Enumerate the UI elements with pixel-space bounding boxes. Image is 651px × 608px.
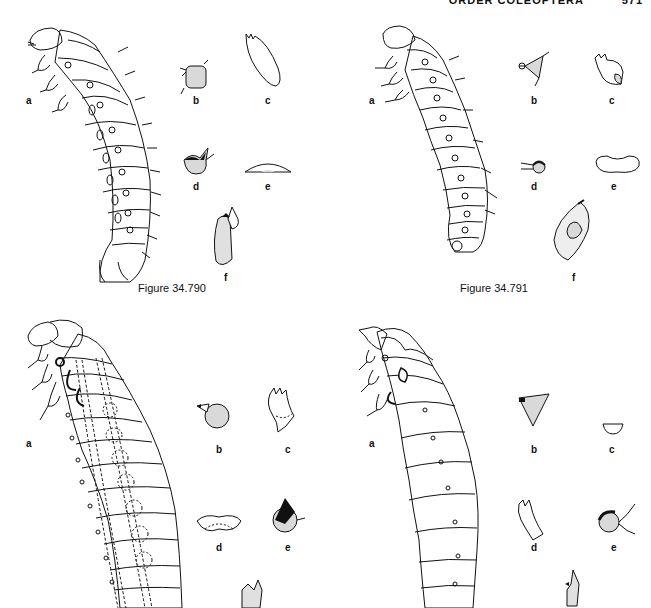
detail-f-illustration-partial	[557, 566, 587, 606]
detail-b-illustration	[178, 60, 218, 100]
figure-caption: Figure 34.791	[460, 282, 528, 294]
panel-label-e: e	[611, 542, 617, 553]
panel-label-b: b	[531, 444, 537, 455]
detail-e-illustration	[265, 492, 305, 536]
panel-label-f: f	[572, 272, 575, 283]
panel-label-b: b	[193, 95, 199, 106]
panel-label-c: c	[265, 95, 271, 106]
figure-34-793: a b c d e	[325, 310, 651, 608]
panel-label-c: c	[609, 444, 615, 455]
panel-label-b: b	[216, 444, 222, 455]
detail-b-illustration	[515, 52, 555, 92]
panel-label-d: d	[531, 542, 537, 553]
panel-label-a: a	[369, 95, 375, 106]
larva-lateral-illustration	[0, 310, 325, 608]
detail-c-illustration	[238, 28, 288, 88]
figure-34-790: a b c d e f Figure 34.790	[0, 0, 325, 310]
panel-label-e: e	[611, 181, 617, 192]
detail-c-illustration	[601, 422, 625, 436]
panel-label-c: c	[609, 95, 615, 106]
detail-e-illustration	[593, 502, 637, 538]
panel-label-d: d	[216, 542, 222, 553]
panel-label-c: c	[285, 444, 291, 455]
detail-d-illustration	[521, 157, 551, 177]
detail-c-illustration	[591, 50, 631, 90]
detail-b-illustration	[515, 392, 555, 432]
panel-label-a: a	[26, 95, 32, 106]
panel-label-a: a	[369, 438, 375, 449]
figure-34-792: a b c d e	[0, 310, 325, 608]
panel-label-e: e	[265, 181, 271, 192]
panel-label-f: f	[224, 272, 227, 283]
detail-f-illustration-partial	[236, 578, 266, 608]
panel-label-b: b	[531, 95, 537, 106]
detail-c-illustration	[264, 386, 304, 436]
larva-lateral-illustration	[325, 310, 651, 608]
detail-d-illustration	[195, 513, 245, 537]
figure-caption: Figure 34.790	[138, 282, 206, 294]
detail-e-illustration	[243, 160, 293, 180]
detail-f-illustration	[550, 200, 594, 264]
figure-34-791: a b c d e f Figure 34.791	[325, 0, 651, 310]
panel-label-d: d	[531, 181, 537, 192]
panel-label-e: e	[285, 542, 291, 553]
detail-d-illustration	[515, 498, 551, 542]
detail-d-illustration	[178, 148, 218, 178]
detail-b-illustration	[195, 394, 235, 434]
panel-label-d: d	[193, 181, 199, 192]
panel-label-a: a	[26, 438, 32, 449]
detail-e-illustration	[593, 152, 643, 176]
detail-f-illustration	[210, 205, 250, 275]
